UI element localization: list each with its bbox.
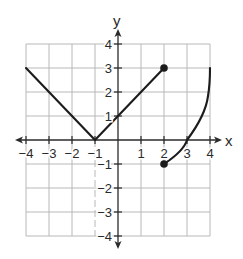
y-axis <box>115 29 122 249</box>
y-tick-label: 1 <box>105 109 112 124</box>
coordinate-graph: −4 −3 −2 −1 1 2 3 4 4 3 2 1 −1 −2 −3 −4 … <box>0 0 243 259</box>
closed-endpoint-2-3 <box>160 64 168 72</box>
y-tick-label: −1 <box>97 157 112 172</box>
x-tick-label: 1 <box>137 146 144 161</box>
x-axis-label: x <box>225 132 233 149</box>
x-tick-label: 2 <box>160 146 167 161</box>
x-tick-label: 4 <box>206 146 213 161</box>
y-tick-label: 4 <box>105 37 112 52</box>
y-tick-label: −4 <box>97 229 112 244</box>
y-tick-label: −3 <box>97 205 112 220</box>
x-tick-label: −3 <box>42 146 57 161</box>
y-tick-label: −2 <box>97 181 112 196</box>
y-axis-label: y <box>113 12 121 29</box>
closed-endpoint-2-neg1 <box>160 160 168 168</box>
y-tick-label: 2 <box>105 85 112 100</box>
x-tick-label: −2 <box>65 146 80 161</box>
y-tick-label: 3 <box>105 61 112 76</box>
x-tick-labels: −4 −3 −2 −1 1 2 3 4 <box>19 146 214 161</box>
x-tick-label: 3 <box>183 146 190 161</box>
x-tick-label: −4 <box>19 146 34 161</box>
